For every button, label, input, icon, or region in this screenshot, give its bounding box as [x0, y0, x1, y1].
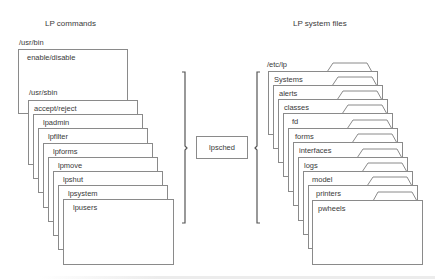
folder-pwheels: pwheels — [312, 200, 423, 265]
folder-label: pwheels — [318, 204, 346, 213]
